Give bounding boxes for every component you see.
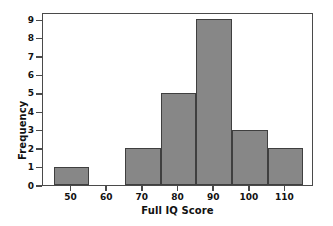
y-axis-tick-label: 0: [20, 182, 34, 191]
histogram-bar: [54, 167, 90, 185]
x-axis-tick: [141, 186, 142, 191]
x-axis-tick: [248, 186, 249, 191]
histogram-bar: [232, 130, 268, 185]
x-axis-tick-label: 80: [163, 192, 193, 202]
histogram-figure: Frequency 0123456789 5060708090100110 Fu…: [0, 0, 333, 226]
x-axis-tick: [105, 186, 106, 191]
histogram-bar: [268, 148, 304, 185]
y-axis-tick-label: 3: [20, 126, 34, 135]
y-axis-tick-label: 2: [20, 145, 34, 154]
x-axis-tick: [177, 186, 178, 191]
y-axis-tick-label: 5: [20, 89, 34, 98]
y-axis-tick-label: 7: [20, 53, 34, 62]
x-axis-title: Full IQ Score: [42, 205, 313, 216]
histogram-bars: [43, 14, 312, 185]
x-axis-tick-label: 90: [198, 192, 228, 202]
y-axis-tick-label: 4: [20, 108, 34, 117]
x-axis-tick-label: 70: [127, 192, 157, 202]
y-axis-tick-label: 8: [20, 34, 34, 43]
histogram-bar: [196, 19, 232, 185]
histogram-bar: [161, 93, 197, 185]
x-axis-tick: [212, 186, 213, 191]
x-axis-tick: [284, 186, 285, 191]
x-axis-tick-label: 100: [234, 192, 264, 202]
y-axis-tick-label: 9: [20, 16, 34, 25]
x-axis-tick-label: 110: [269, 192, 299, 202]
x-axis-tick: [70, 186, 71, 191]
y-axis-tick-label: 1: [20, 163, 34, 172]
y-axis-tick-label: 6: [20, 71, 34, 80]
x-axis-tick-label: 60: [91, 192, 121, 202]
plot-area: [42, 13, 313, 186]
histogram-bar: [125, 148, 161, 185]
x-axis-tick-label: 50: [56, 192, 86, 202]
